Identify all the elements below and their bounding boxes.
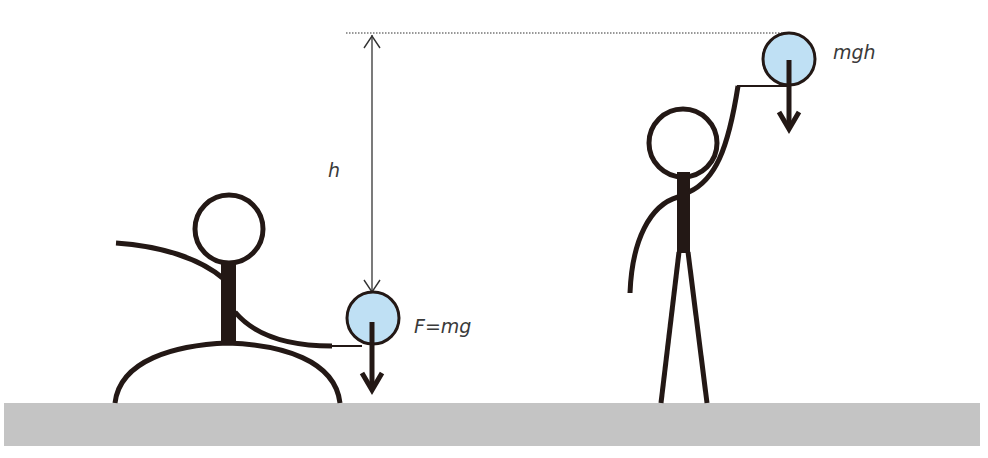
crouching-figure — [115, 195, 362, 403]
standing-left-leg — [661, 252, 679, 403]
standing-lowered-arm — [630, 197, 678, 293]
potential-energy-diagram: h F=mg mgh — [0, 0, 988, 458]
crouching-head — [195, 195, 263, 263]
crouching-legs — [115, 343, 340, 403]
ball-low — [347, 292, 399, 390]
height-label: h — [328, 159, 340, 181]
height-dimension-arrow — [364, 35, 380, 292]
force-label: F=mg — [414, 315, 471, 337]
standing-head — [649, 109, 717, 177]
ball-high — [763, 33, 815, 129]
crouching-front-arm — [235, 312, 332, 346]
ground — [4, 403, 980, 446]
potential-energy-label: mgh — [833, 41, 876, 63]
standing-torso — [677, 172, 690, 253]
crouching-back-arm — [116, 243, 224, 279]
standing-figure — [630, 86, 790, 403]
standing-right-leg — [688, 252, 707, 403]
